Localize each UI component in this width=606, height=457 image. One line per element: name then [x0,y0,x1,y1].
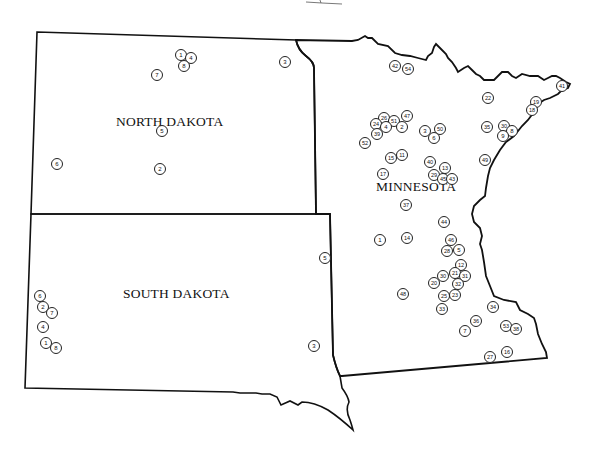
minnesota-site-marker[interactable]: 28 [441,245,453,257]
minnesota-site-marker[interactable]: 17 [377,168,389,180]
north-dakota-site-marker[interactable]: 3 [279,56,291,68]
minnesota-site-marker[interactable]: 52 [359,137,371,149]
south-dakota-site-marker[interactable]: 5 [319,252,331,264]
north-dakota-site-marker[interactable]: 6 [51,158,63,170]
minnesota-site-marker[interactable]: 1 [374,234,386,246]
minnesota-site-marker[interactable]: 16 [501,346,513,358]
south-dakota-site-marker[interactable]: 4 [37,321,49,333]
state-label-north-dakota: NORTH DAKOTA [116,114,223,130]
south-dakota-site-marker[interactable]: 8 [50,342,62,354]
minnesota-site-marker[interactable]: 38 [510,323,522,335]
minnesota-site-marker[interactable]: 6 [428,132,440,144]
minnesota-site-marker[interactable]: 2 [396,121,408,133]
minnesota-site-marker[interactable]: 9 [497,130,509,142]
minnesota-site-marker[interactable]: 43 [446,173,458,185]
minnesota-site-marker[interactable]: 22 [482,92,494,104]
minnesota-site-marker[interactable]: 37 [400,199,412,211]
minnesota-site-marker[interactable]: 14 [401,232,413,244]
south-dakota-site-marker[interactable]: 7 [46,307,58,319]
minnesota-site-marker[interactable]: 54 [402,63,414,75]
north-dakota-site-marker[interactable]: 8 [178,60,190,72]
minnesota-site-marker[interactable]: 27 [484,351,496,363]
minnesota-site-marker[interactable]: 41 [556,80,568,92]
minnesota-site-marker[interactable]: 33 [436,303,448,315]
minnesota-site-marker[interactable]: 34 [487,301,499,313]
minnesota-site-marker[interactable]: 35 [481,121,493,133]
minnesota-site-marker[interactable]: 48 [397,288,409,300]
state-label-south-dakota: SOUTH DAKOTA [123,286,230,302]
south-dakota-outline [25,214,353,430]
south-dakota-site-marker[interactable]: 3 [308,340,320,352]
north-dakota-site-marker[interactable]: 5 [156,125,168,137]
minnesota-site-marker[interactable]: 5 [453,244,465,256]
north-dakota-site-marker[interactable]: 2 [154,163,166,175]
minnesota-site-marker[interactable]: 40 [424,156,436,168]
minnesota-site-marker[interactable]: 36 [470,315,482,327]
state-map [0,0,606,457]
minnesota-site-marker[interactable]: 39 [371,128,383,140]
minnesota-site-marker[interactable]: 11 [396,149,408,161]
minnesota-site-marker[interactable]: 23 [449,289,461,301]
north-dakota-site-marker[interactable]: 7 [151,69,163,81]
minnesota-site-marker[interactable]: 18 [526,104,538,116]
minnesota-outline [296,36,570,376]
compass-mark [306,0,342,4]
minnesota-site-marker[interactable]: 7 [459,325,471,337]
minnesota-site-marker[interactable]: 20 [428,277,440,289]
minnesota-site-marker[interactable]: 49 [479,154,491,166]
minnesota-site-marker[interactable]: 42 [389,60,401,72]
minnesota-site-marker[interactable]: 44 [438,216,450,228]
